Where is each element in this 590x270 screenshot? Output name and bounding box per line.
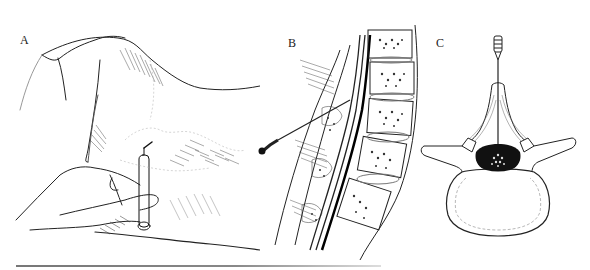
panel-b-sagittal-spine: B (250, 0, 430, 260)
patient-back-illustration (0, 0, 260, 270)
sagittal-spine-illustration (250, 0, 430, 260)
panel-label-b: B (288, 36, 296, 51)
figure-bottom-rule (16, 265, 381, 267)
panel-a-back-needle-insertion: A (0, 0, 260, 270)
panel-label-c: C (436, 36, 444, 51)
spinal-needle-b (259, 100, 351, 155)
panel-label-a: A (20, 33, 29, 48)
panel-c-axial-vertebra: C (410, 0, 590, 260)
